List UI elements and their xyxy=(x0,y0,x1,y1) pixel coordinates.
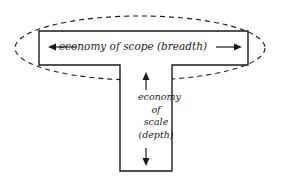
depth-label-line: economy xyxy=(138,91,174,104)
breadth-label: economy of scope (breadth) xyxy=(58,41,208,52)
depth-label-line: scale xyxy=(138,116,174,129)
depth-label-line: (depth) xyxy=(138,129,174,142)
t-shape-diagram: economy of scope (breadth) economy of sc… xyxy=(0,0,281,178)
depth-label: economy of scale (depth) xyxy=(138,91,174,141)
t-shape-drawing xyxy=(0,0,281,178)
depth-label-line: of xyxy=(138,104,174,117)
